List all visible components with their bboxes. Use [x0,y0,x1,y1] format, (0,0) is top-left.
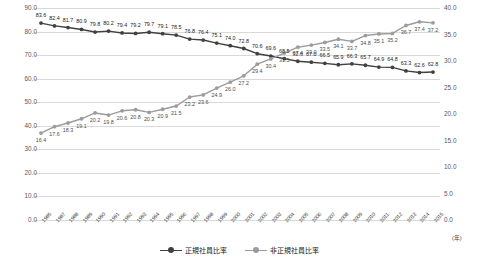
y-axis-right-tick: 30.0 [444,58,476,64]
y-axis-left-tick: 20.0 [7,170,37,176]
data-point [201,38,205,42]
y-axis-right-tick: 40.0 [444,5,476,11]
data-point-label: 35.1 [374,39,385,44]
data-point-label: 20.9 [157,115,168,120]
data-point [201,93,205,97]
data-point [66,26,70,30]
legend-marker-icon [160,246,182,254]
data-point [404,69,408,73]
data-point-label: 80.9 [76,20,87,25]
data-point-label: 32.6 [293,53,304,58]
data-point-label: 65.7 [360,56,371,61]
data-point-label: 34.1 [333,45,344,50]
data-point [107,29,111,33]
data-point [323,41,327,45]
data-point-label: 82.4 [49,16,60,21]
data-point-label: 33.7 [347,47,358,52]
y-axis-left-tick: 40.0 [7,123,37,129]
data-point-label: 33.0 [306,50,317,55]
data-point [188,37,192,41]
data-point [350,62,354,66]
data-point [134,32,138,36]
data-point [66,121,70,125]
data-point-label: 20.8 [130,115,141,120]
data-point-label: 75.1 [211,33,222,38]
data-point [309,60,313,64]
data-point [147,30,151,34]
data-point [93,111,97,115]
legend-label: 非正規社員比率 [270,245,319,255]
data-point-label: 19.1 [76,124,87,129]
data-point [391,32,395,36]
legend-item[interactable]: 非正規社員比率 [245,245,319,255]
y-axis-right-tick: 0.0 [444,217,476,223]
data-point-label: 80.2 [103,21,114,26]
data-point [255,52,259,56]
data-point-label: 20.3 [144,118,155,123]
data-point [80,117,84,121]
data-point-label: 33.5 [320,48,331,53]
data-point-label: 24.9 [211,93,222,98]
data-point-label: 30.4 [266,64,277,69]
data-point-label: 64.9 [374,57,385,62]
y-axis-left-tick: 50.0 [7,99,37,105]
data-point-label: 62.8 [428,62,439,67]
data-point [39,21,43,25]
data-point-label: 37.2 [428,28,439,33]
data-point [242,74,246,78]
data-point-label: 23.2 [184,102,195,107]
data-point-label: 18.3 [63,128,74,133]
series-line [41,23,433,72]
data-point-label: 20.2 [90,118,101,123]
data-point [323,61,327,65]
y-axis-left-tick: 30.0 [7,146,37,152]
data-point-label: 19.8 [103,120,114,125]
data-point-label: 26.0 [225,87,236,92]
data-point [336,63,340,67]
data-point-label: 76.8 [184,29,195,34]
data-point [120,31,124,35]
y-axis-left-tick: 10.0 [7,193,37,199]
y-axis-left-tick: 0.0 [7,217,37,223]
data-point-label: 83.6 [36,13,47,18]
data-point-label: 70.6 [252,44,263,49]
data-point [39,131,43,135]
data-point [53,125,57,129]
data-point [53,24,57,28]
data-point-label: 65.9 [333,55,344,60]
data-point-label: 37.4 [414,27,425,32]
data-point-label: 27.2 [239,81,250,86]
data-point [350,39,354,43]
data-point [242,47,246,51]
chart-legend: 正規社員比率非正規社員比率 [0,245,479,255]
data-point [161,107,165,111]
data-point-label: 79.1 [157,24,168,29]
data-point-label: 64.8 [387,58,398,63]
data-point-label: 72.8 [239,39,250,44]
data-point-label: 35.2 [387,39,398,44]
y-axis-right-tick: 20.0 [444,111,476,117]
data-point [364,34,368,38]
legend-marker-icon [245,246,267,254]
data-point-label: 23.6 [198,100,209,105]
legend-label: 正規社員比率 [185,245,227,255]
data-point [296,59,300,63]
data-point-label: 62.6 [414,63,425,68]
data-point [377,65,381,69]
data-point-label: 79.7 [144,23,155,28]
data-point-label: 69.6 [266,46,277,51]
data-point [228,80,232,84]
y-axis-left-tick: 60.0 [7,76,37,82]
data-point [107,113,111,117]
data-point-label: 31.5 [279,58,290,63]
data-point-label: 34.8 [360,41,371,46]
data-point [431,21,435,25]
data-point [93,30,97,34]
data-point [296,45,300,49]
data-point [336,37,340,41]
data-point-label: 68.5 [279,49,290,54]
data-point [255,62,259,66]
legend-item[interactable]: 正規社員比率 [160,245,227,255]
data-point [404,24,408,28]
y-axis-left-tick: 70.0 [7,52,37,58]
